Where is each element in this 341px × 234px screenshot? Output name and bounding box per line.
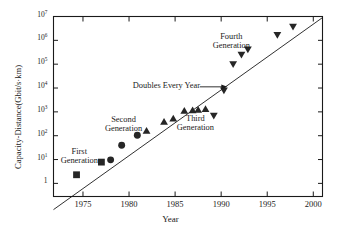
y-tick-label: 101	[37, 154, 47, 162]
series-second-generation	[107, 132, 141, 164]
x-tick-label: 1985	[155, 200, 195, 209]
x-tick-label: 1980	[109, 200, 149, 209]
annotation-doubles-every-year: Doubles Every Year	[133, 82, 200, 91]
data-point-square	[73, 171, 80, 178]
data-point-circle	[118, 142, 125, 149]
y-tick-label: 103	[37, 106, 47, 114]
y-tick-label: 107	[37, 11, 47, 19]
capacity-distance-chart: 1101102103104105106107197519801985199019…	[0, 0, 341, 234]
y-tick-label: 106	[37, 34, 47, 42]
x-tick-label: 2000	[293, 200, 333, 209]
plot-frame	[54, 17, 323, 197]
y-axis-title: Capacity-Distance(Gbit/s·km)	[13, 64, 23, 168]
annotation-fourth-generation: FourthGeneration	[201, 33, 261, 51]
y-tick-label: 102	[37, 130, 47, 138]
annotation-second-generation: SecondGeneration	[94, 116, 154, 134]
data-point-triangle-down	[220, 87, 228, 94]
data-point-triangle-down	[273, 32, 281, 39]
data-point-triangle-up	[202, 105, 210, 112]
data-point-triangle-down	[229, 61, 237, 68]
y-tick-label: 105	[37, 58, 47, 66]
annotation-third-generation: ThirdGeneration	[165, 115, 225, 133]
data-point-triangle-down	[289, 24, 297, 31]
y-tick-label: 1	[44, 177, 48, 185]
data-point-triangle-up	[194, 106, 202, 113]
annotation-first-generation: FirstGeneration	[49, 148, 109, 166]
x-tick-label: 1995	[247, 200, 287, 209]
data-point-triangle-down	[238, 52, 246, 59]
x-tick-label: 1990	[201, 200, 241, 209]
x-tick-label: 1975	[63, 200, 103, 209]
x-axis-title: Year	[0, 215, 341, 224]
y-tick-label: 104	[37, 82, 47, 90]
data-point-triangle-up	[180, 107, 188, 114]
